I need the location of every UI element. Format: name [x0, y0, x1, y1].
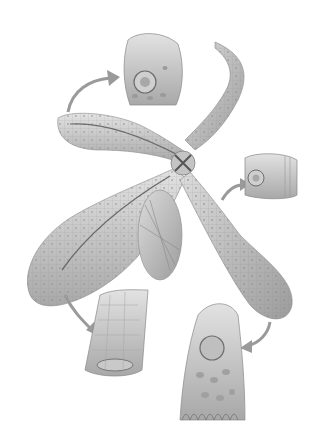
cell-block-top [124, 34, 182, 105]
arrow-right [222, 185, 242, 200]
cell-block-right [245, 154, 297, 199]
arrow-top [68, 78, 110, 112]
cell-block-bottom-right [180, 304, 245, 420]
upper-right-duct [185, 42, 244, 150]
cell-block-bottom-left [85, 290, 148, 376]
arrow-bottom-left [65, 295, 92, 330]
central-junction [171, 151, 195, 175]
gland-illustration [0, 0, 314, 440]
upper-left-lobe [58, 113, 185, 162]
posterior-lobe [138, 190, 182, 280]
illustration-canvas [0, 0, 314, 440]
